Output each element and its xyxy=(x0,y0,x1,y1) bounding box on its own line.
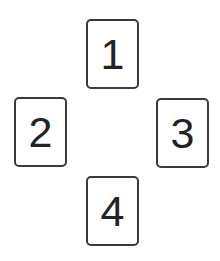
card-1-top[interactable]: 1 xyxy=(86,19,139,89)
card-number-label: 3 xyxy=(171,112,195,155)
card-4-bottom[interactable]: 4 xyxy=(86,176,139,246)
card-3-right[interactable]: 3 xyxy=(156,98,209,168)
card-number-label: 4 xyxy=(101,190,125,233)
card-2-left[interactable]: 2 xyxy=(14,97,67,167)
card-number-label: 1 xyxy=(101,33,125,76)
card-number-label: 2 xyxy=(29,111,53,154)
